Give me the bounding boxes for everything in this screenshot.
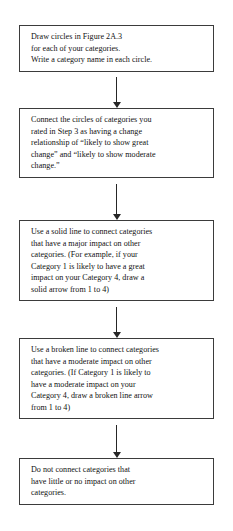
step-2-line-5: change.” bbox=[31, 160, 204, 172]
flowchart-step-3: Use a solid line to connect categories t… bbox=[19, 220, 214, 301]
step-3-line-4: Category 1 is likely to have a great bbox=[31, 261, 204, 273]
step-5-line-3: categories. bbox=[31, 487, 204, 499]
step-4-line-1: Use a broken line to connect categories bbox=[31, 344, 204, 356]
flowchart-step-1: Draw circles in Figure 2A.3 for each of … bbox=[19, 25, 214, 72]
step-5-line-1: Do not connect categories that bbox=[31, 464, 204, 476]
step-3-line-1: Use a solid line to connect categories bbox=[31, 226, 204, 238]
connector-3-to-4 bbox=[0, 307, 233, 338]
connector-shaft bbox=[116, 425, 117, 452]
connector-2-to-3 bbox=[0, 184, 233, 220]
step-4-line-2: that have a moderate impact on other bbox=[31, 356, 204, 368]
step-2-line-2: rated in Step 3 as having a change bbox=[31, 126, 204, 138]
connector-shaft bbox=[116, 307, 117, 332]
connector-shaft bbox=[116, 184, 117, 214]
step-3-line-6: solid arrow from 1 to 4) bbox=[31, 284, 204, 296]
step-4-line-3: categories. (If Category 1 is likely to bbox=[31, 367, 204, 379]
flowchart-step-5: Do not connect categories that have litt… bbox=[19, 458, 214, 505]
step-5-line-2: have little or no impact on other bbox=[31, 476, 204, 488]
step-1-line-3: Write a category name in each circle. bbox=[31, 54, 204, 66]
step-2-line-3: relationship of “likely to show great bbox=[31, 137, 204, 149]
step-3-line-5: impact on your Category 4, draw a bbox=[31, 272, 204, 284]
connector-1-to-2 bbox=[0, 77, 233, 108]
connector-shaft bbox=[116, 77, 117, 102]
step-4-line-5: Category 4, draw a broken line arrow bbox=[31, 390, 204, 402]
step-2-line-4: change” and “likely to show moderate bbox=[31, 149, 204, 161]
step-4-line-4: have a moderate impact on your bbox=[31, 379, 204, 391]
connector-4-to-5 bbox=[0, 425, 233, 458]
flowchart-step-4: Use a broken line to connect categories … bbox=[19, 338, 214, 419]
step-3-line-3: categories. (For example, if your bbox=[31, 249, 204, 261]
step-1-line-2: for each of your categories. bbox=[31, 43, 204, 55]
flowchart-diagram: Draw circles in Figure 2A.3 for each of … bbox=[0, 0, 233, 531]
step-2-line-1: Connect the circles of categories you bbox=[31, 114, 204, 126]
step-4-line-6: from 1 to 4) bbox=[31, 402, 204, 414]
step-3-line-2: that have a major impact on other bbox=[31, 238, 204, 250]
step-1-line-1: Draw circles in Figure 2A.3 bbox=[31, 31, 204, 43]
flowchart-step-2: Connect the circles of categories you ra… bbox=[19, 108, 214, 178]
